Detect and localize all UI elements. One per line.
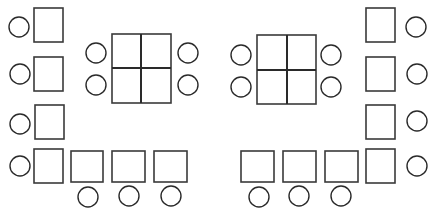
seat-left-4-chair: [10, 156, 30, 176]
seat-left-3-chair: [10, 114, 30, 134]
seat-table-left-4-chair: [178, 75, 198, 95]
seat-table-left-2-chair: [86, 75, 106, 95]
group-table-center-left: [112, 34, 171, 103]
seat-right-3-chair: [407, 111, 427, 131]
seat-right-2-chair: [407, 64, 427, 84]
desk-bottom-left-2: [112, 151, 145, 182]
seat-table-left-1-chair: [86, 43, 106, 63]
desk-bottom-right-2: [283, 151, 316, 182]
seat-bottom-right-1-chair: [249, 187, 269, 207]
group-tables: [112, 34, 316, 104]
desk-bottom-right-3: [325, 151, 358, 182]
seat-left-2-chair: [10, 64, 30, 84]
seat-table-left-3-chair: [178, 43, 198, 63]
seat-bottom-left-1-chair: [78, 187, 98, 207]
desks-group: [34, 8, 395, 183]
seat-right-4-chair: [407, 156, 427, 176]
seat-table-right-3-chair: [321, 45, 341, 65]
seat-bottom-right-3-chair: [331, 186, 351, 206]
seat-right-1-chair: [406, 17, 426, 37]
seat-table-right-4-chair: [321, 77, 341, 97]
desk-bottom-right-1: [241, 151, 274, 182]
desk-bottom-left-3: [154, 151, 187, 182]
seat-bottom-left-3-chair: [161, 186, 181, 206]
desk-right-3: [366, 105, 395, 139]
desk-bottom-left-1: [71, 151, 103, 182]
desk-right-1: [366, 8, 395, 42]
seat-bottom-right-2-chair: [289, 186, 309, 206]
group-table-center-right: [257, 35, 316, 104]
desk-left-2: [34, 57, 63, 91]
seat-left-1-chair: [9, 17, 29, 37]
desk-left-1: [34, 8, 63, 42]
desk-left-3: [35, 105, 64, 139]
desk-left-4: [34, 149, 63, 183]
seating-diagram: [0, 0, 436, 217]
seat-table-right-2-chair: [231, 77, 251, 97]
desk-right-2: [366, 57, 395, 91]
seat-table-right-1-chair: [231, 45, 251, 65]
seat-bottom-left-2-chair: [119, 186, 139, 206]
desk-right-4: [366, 149, 395, 183]
